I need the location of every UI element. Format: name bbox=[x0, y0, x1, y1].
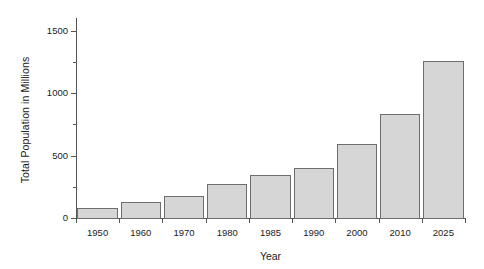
y-tick-label-500: 500 bbox=[52, 151, 68, 161]
y-tick-500 bbox=[71, 156, 77, 157]
x-tick-1970 bbox=[162, 218, 163, 223]
bar-chart-figure: Total Population in Millions 05001000150… bbox=[0, 0, 484, 269]
bar-1970 bbox=[164, 196, 204, 220]
y-tick-minor-250 bbox=[73, 187, 77, 188]
bar-1950 bbox=[77, 208, 117, 219]
x-tick-end bbox=[465, 218, 466, 223]
y-tick-label-1000: 1000 bbox=[47, 88, 68, 98]
x-tick-label-1980: 1980 bbox=[206, 228, 249, 238]
y-tick-1500 bbox=[71, 31, 77, 32]
x-tick-label-1990: 1990 bbox=[292, 228, 335, 238]
x-tick-label-2025: 2025 bbox=[422, 228, 465, 238]
x-tick-label-1950: 1950 bbox=[76, 228, 119, 238]
y-tick-1000 bbox=[71, 93, 77, 94]
x-tick-label-2000: 2000 bbox=[335, 228, 378, 238]
bar-2010 bbox=[380, 114, 420, 219]
x-tick-label-2010: 2010 bbox=[379, 228, 422, 238]
x-tick-label-1960: 1960 bbox=[119, 228, 162, 238]
y-axis-title: Total Population in Millions bbox=[19, 20, 31, 220]
plot-area: 050010001500 195019601970198019851990200… bbox=[76, 18, 465, 218]
bar-1980 bbox=[207, 184, 247, 219]
bar-1990 bbox=[294, 168, 334, 219]
x-tick-label-1985: 1985 bbox=[249, 228, 292, 238]
bar-1985 bbox=[250, 175, 290, 219]
y-tick-minor-750 bbox=[73, 124, 77, 125]
bar-2025 bbox=[423, 61, 463, 220]
y-tick-label-0: 0 bbox=[63, 213, 68, 223]
bar-2000 bbox=[337, 144, 377, 219]
x-tick-label-1970: 1970 bbox=[162, 228, 205, 238]
y-axis-line bbox=[76, 18, 77, 219]
bar-1960 bbox=[121, 202, 161, 219]
y-tick-label-1500: 1500 bbox=[47, 26, 68, 36]
x-axis-title: Year bbox=[76, 250, 465, 262]
y-tick-minor-1250 bbox=[73, 62, 77, 63]
